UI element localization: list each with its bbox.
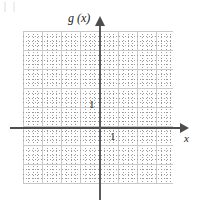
grid-line-horizontal-major <box>23 183 173 184</box>
grid-line-horizontal-minor <box>23 112 173 113</box>
grid-line-horizontal-major <box>23 145 173 146</box>
y-axis-unit-label: 1 <box>89 99 95 110</box>
grid-line-horizontal-minor <box>23 55 173 56</box>
y-axis-label: g (x) <box>68 12 90 24</box>
grid-line-horizontal-minor <box>23 140 173 141</box>
grid-line-horizontal-minor <box>23 159 173 160</box>
grid-line-horizontal-minor <box>23 79 173 80</box>
grid-line-horizontal-minor <box>23 64 173 65</box>
grid-line-horizontal-minor <box>23 83 173 84</box>
grid-line-horizontal-minor <box>23 74 173 75</box>
grid-line-horizontal-minor <box>23 60 173 61</box>
grid-line-horizontal-minor <box>23 150 173 151</box>
grid-line-horizontal-minor <box>23 41 173 42</box>
grid-plate <box>23 31 173 183</box>
coordinate-grid-figure: g (x) x 1 1 <box>0 0 198 207</box>
grid-line-horizontal-minor <box>23 155 173 156</box>
x-axis-unit-label: 1 <box>110 131 116 142</box>
grid-line-horizontal-minor <box>23 169 173 170</box>
grid-line-horizontal-minor <box>23 45 173 46</box>
grid-line-horizontal-minor <box>23 36 173 37</box>
y-axis-arrowhead-icon <box>95 16 105 26</box>
grid-line-horizontal-minor <box>23 136 173 137</box>
grid-line-horizontal-minor <box>23 174 173 175</box>
grid-line-horizontal-minor <box>23 98 173 99</box>
y-axis-line <box>99 25 101 200</box>
grid-line-horizontal-major <box>23 69 173 70</box>
grid-line-horizontal-major <box>23 107 173 108</box>
grid-line-horizontal-major <box>23 88 173 89</box>
grid-line-horizontal-major <box>23 164 173 165</box>
corner-artifact <box>4 2 26 12</box>
grid-line-horizontal-minor <box>23 117 173 118</box>
grid-line-horizontal-minor <box>23 102 173 103</box>
grid-line-horizontal-minor <box>23 131 173 132</box>
x-axis-line <box>10 127 182 129</box>
grid-line-horizontal-major <box>23 50 173 51</box>
grid-line-horizontal-minor <box>23 93 173 94</box>
grid-line-horizontal-minor <box>23 178 173 179</box>
grid-line-horizontal-minor <box>23 121 173 122</box>
grid-line-horizontal-major <box>23 31 173 32</box>
x-axis-label: x <box>184 133 189 144</box>
